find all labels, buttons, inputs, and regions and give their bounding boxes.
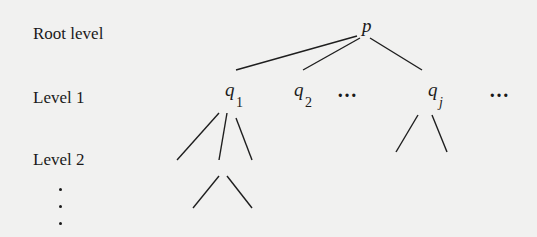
edge-qj-child-1	[396, 115, 418, 152]
root-node-p: p	[362, 16, 372, 35]
node-qj-subscript: j	[439, 96, 443, 110]
node-qj: q	[428, 80, 438, 99]
node-q2-subscript: 2	[305, 96, 312, 110]
root-level-label: Root level	[33, 24, 103, 44]
tree-diagram: Root level Level 1 Level 2 p q 1 q 2 … q…	[0, 0, 537, 237]
continuation-dot-3	[59, 222, 62, 225]
edge-p-q1	[236, 36, 357, 70]
edge-q1-child-1	[177, 113, 219, 160]
continuation-dot-2	[59, 205, 62, 208]
node-q2: q	[294, 80, 304, 99]
edge-p-qj	[370, 38, 422, 70]
ellipsis-after-qj: …	[489, 80, 510, 100]
level-2-label: Level 2	[33, 150, 84, 170]
level-1-label: Level 1	[33, 88, 84, 108]
edge-level2-left	[193, 176, 219, 208]
continuation-dot-1	[59, 188, 62, 191]
node-q1-subscript: 1	[236, 96, 243, 110]
node-q1: q	[225, 80, 235, 99]
edge-qj-child-2	[432, 115, 447, 152]
edge-q1-child-2	[219, 113, 227, 160]
edge-level2-right	[227, 176, 252, 208]
edge-q1-child-3	[236, 118, 252, 160]
ellipsis-after-q2: …	[337, 80, 358, 100]
